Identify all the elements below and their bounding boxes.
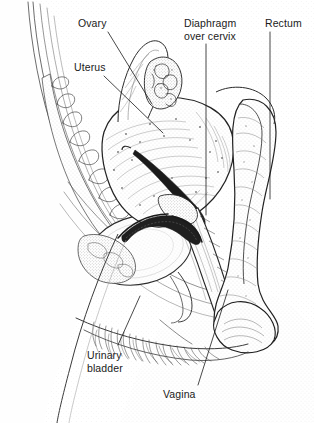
anatomical-figure: Ovary Uterus Diaphragmover cervix Rectum…	[0, 0, 314, 423]
label-diaphragm-line2: over cervix	[184, 30, 236, 42]
label-uterus: Uterus	[74, 61, 106, 74]
pelvis-sagittal-illustration	[0, 0, 314, 423]
label-diaphragm-line1: Diaphragm	[184, 17, 236, 29]
label-urinary-bladder: Urinarybladder	[87, 349, 123, 374]
label-rectum: Rectum	[265, 17, 302, 30]
label-urinary-line1: Urinary	[87, 349, 122, 361]
label-diaphragm-over-cervix: Diaphragmover cervix	[184, 17, 236, 42]
label-vagina: Vagina	[163, 388, 196, 401]
label-ovary: Ovary	[78, 17, 107, 30]
label-urinary-line2: bladder	[87, 362, 123, 374]
